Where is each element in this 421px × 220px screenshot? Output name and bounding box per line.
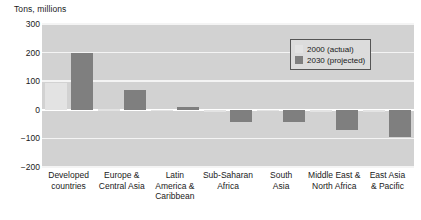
x-axis-tick: East Asia& Pacific (361, 170, 414, 216)
bar-2000 (45, 83, 67, 109)
legend-swatch (295, 45, 303, 53)
y-axis-tick: 200 (4, 48, 40, 58)
bar-group (148, 24, 201, 167)
bar-group (201, 24, 254, 167)
bar-2030 (230, 110, 252, 122)
x-axis-tick: SouthAsia (255, 170, 308, 216)
legend-item: 2000 (actual) (295, 44, 365, 54)
y-axis-tick: −100 (4, 133, 40, 143)
bar-2000 (310, 110, 332, 112)
y-axis-tick: 100 (4, 76, 40, 86)
bar-2000 (363, 110, 385, 112)
x-axis-tick-labels: DevelopedcountriesEurope &Central AsiaLa… (42, 170, 414, 216)
y-axis-tick-labels: 3002001000−100−200 (0, 24, 40, 167)
legend-label: 2000 (actual) (307, 45, 354, 54)
bar-2030 (336, 110, 358, 131)
bar-2030 (177, 107, 199, 110)
bar-2030 (389, 110, 411, 137)
x-axis-tick: Developedcountries (42, 170, 95, 216)
bar-group (95, 24, 148, 167)
bar-2000 (151, 110, 173, 112)
bar-2000 (98, 109, 120, 111)
chart-legend: 2000 (actual)2030 (projected) (290, 39, 371, 70)
legend-swatch (295, 56, 303, 64)
x-axis-tick: Middle East &North Africa (308, 170, 361, 216)
y-axis-tick: −200 (4, 162, 40, 172)
legend-label: 2030 (projected) (307, 56, 365, 65)
bar-2030 (124, 90, 146, 110)
chart-axis-title: Tons, millions (14, 4, 66, 14)
x-axis-tick: Sub-SaharanAfrica (201, 170, 254, 216)
bar-chart: Tons, millions 3002001000−100−200 Develo… (0, 0, 421, 220)
x-axis-tick: Europe &Central Asia (95, 170, 148, 216)
legend-item: 2030 (projected) (295, 55, 365, 65)
bar-2030 (71, 53, 93, 110)
bar-group (42, 24, 95, 167)
y-axis-tick: 0 (4, 105, 40, 115)
bar-2000 (204, 110, 226, 112)
bar-2000 (257, 110, 279, 112)
bar-2030 (283, 110, 305, 122)
y-axis-tick: 300 (4, 19, 40, 29)
x-axis-tick: LatinAmerica &Caribbean (148, 170, 201, 216)
